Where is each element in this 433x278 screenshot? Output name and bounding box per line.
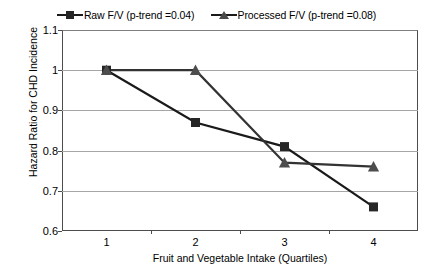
x-axis-tick-labels: 1234 bbox=[62, 236, 418, 252]
chart-legend: Raw F/V (p-trend =0.04) Processed F/V (p… bbox=[0, 6, 433, 24]
data-point-marker[interactable] bbox=[280, 142, 289, 151]
x-axis-tick-label: 4 bbox=[370, 236, 376, 248]
chart-container: Raw F/V (p-trend =0.04) Processed F/V (p… bbox=[0, 0, 433, 278]
y-axis-tick-mark bbox=[58, 231, 62, 232]
x-axis-tick-label: 1 bbox=[103, 236, 109, 248]
x-axis-tick-label: 2 bbox=[192, 236, 198, 248]
legend-label-processed-fv: Processed F/V (p-trend =0.08) bbox=[237, 9, 377, 21]
legend-entry-raw-fv[interactable]: Raw F/V (p-trend =0.04) bbox=[57, 9, 195, 21]
series-layer bbox=[62, 30, 418, 231]
data-point-marker[interactable] bbox=[191, 118, 200, 127]
y-axis-title: Hazard Ratio for CHD Incidence bbox=[27, 7, 39, 197]
y-axis-title-wrap: Hazard Ratio for CHD Incidence bbox=[0, 0, 20, 260]
legend-entry-processed-fv[interactable]: Processed F/V (p-trend =0.08) bbox=[211, 9, 377, 21]
data-point-marker[interactable] bbox=[369, 202, 378, 211]
series-line-processed-fv bbox=[107, 70, 374, 167]
y-axis-tick-label: 0.6 bbox=[18, 225, 58, 237]
triangle-marker-icon bbox=[211, 9, 237, 21]
series-line-raw-fv bbox=[107, 70, 374, 207]
legend-label-raw-fv: Raw F/V (p-trend =0.04) bbox=[83, 9, 195, 21]
x-axis-title: Fruit and Vegetable Intake (Quartiles) bbox=[62, 252, 418, 264]
square-marker-icon bbox=[57, 9, 83, 21]
x-axis-tick-label: 3 bbox=[281, 236, 287, 248]
